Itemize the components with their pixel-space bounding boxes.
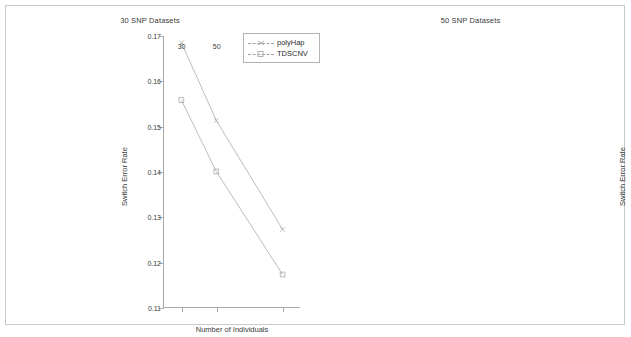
chart-title-right: 50 SNP Datasets <box>310 16 631 25</box>
x-tick-label-left: 50 <box>213 43 221 50</box>
y-tick-label-left: 0.14 <box>147 169 161 176</box>
y-tick-label-left: 0.17 <box>147 33 161 40</box>
figure-canvas: 30 SNP Datasets Switch Error Rate Number… <box>0 0 631 337</box>
legend-item-tdscnv: TDSCNV <box>248 48 313 59</box>
y-tick-label-left: 0.15 <box>147 123 161 130</box>
series-layer-left <box>164 36 300 307</box>
x-tick-left <box>182 307 183 312</box>
y-tick-label-left: 0.11 <box>148 305 161 312</box>
plot-area-left: Switch Error Rate Number of Individuals … <box>163 36 300 308</box>
x-axis-label-left: Number of Individuals <box>164 325 300 334</box>
series-tdscnv <box>179 98 285 277</box>
chart-panel-left: 30 SNP Datasets Switch Error Rate Number… <box>0 0 320 337</box>
legend-label-polyhap: polyHap <box>277 38 305 47</box>
x-tick-left <box>217 307 218 312</box>
x-tick-left <box>283 307 284 312</box>
legend-marker-x-icon <box>248 38 274 48</box>
series-polyhap <box>179 40 285 231</box>
legend-label-tdscnv: TDSCNV <box>277 49 308 58</box>
y-tick-label-left: 0.16 <box>147 78 161 85</box>
chart-legend: polyHap TDSCNV <box>243 33 320 63</box>
legend-item-polyhap: polyHap <box>248 37 313 48</box>
y-axis-label-right: Switch Error Rate <box>618 121 627 231</box>
x-tick-label-left: 30 <box>178 43 186 50</box>
chart-panel-right: 50 SNP Datasets Switch Error Rate Number… <box>310 0 631 337</box>
legend-marker-square-icon <box>248 49 274 59</box>
y-tick-label-left: 0.13 <box>147 214 161 221</box>
y-axis-label-left: Switch Error Rate <box>120 121 129 231</box>
y-tick-label-left: 0.12 <box>147 259 161 266</box>
chart-title-left: 30 SNP Datasets <box>0 16 310 25</box>
